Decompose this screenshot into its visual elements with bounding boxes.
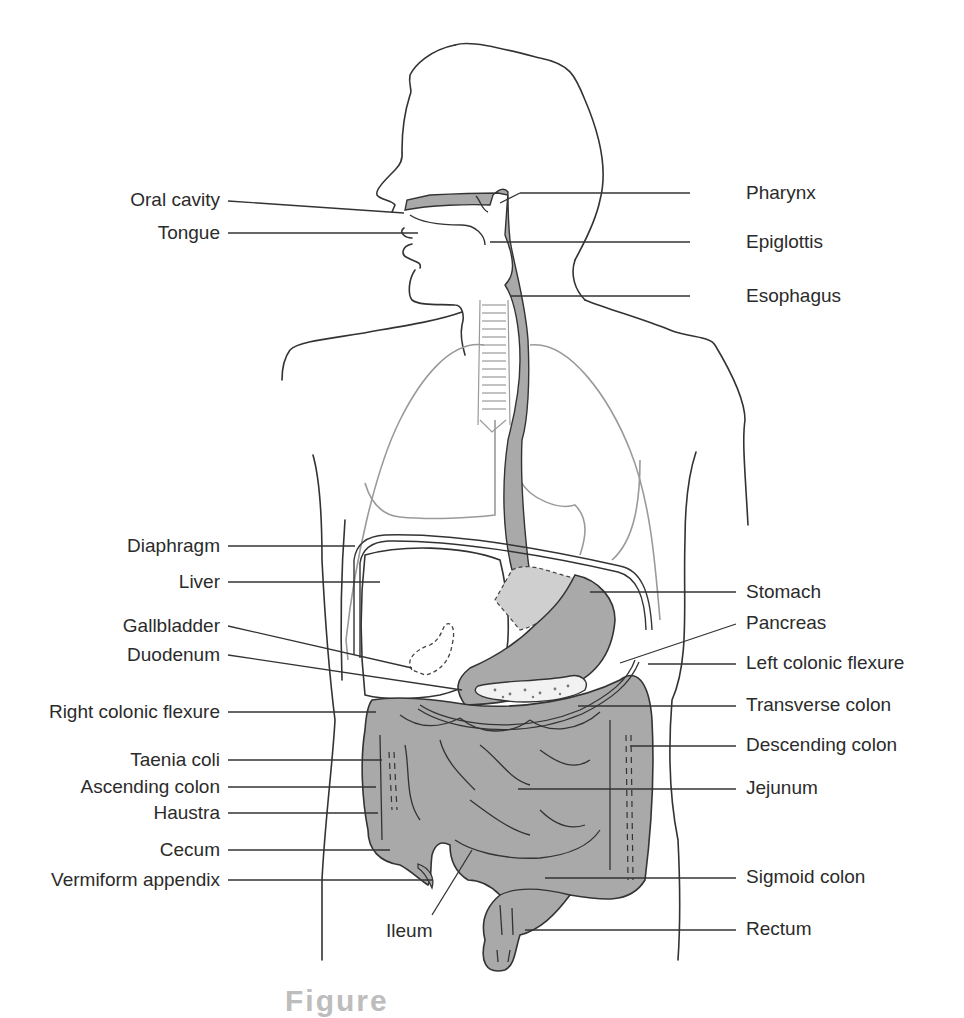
right-shoulder [585,300,748,525]
label-cecum: Cecum [0,839,220,861]
label-liver: Liver [0,571,220,593]
label-esophagus: Esophagus [746,285,841,307]
label-right-colonic-flexure: Right colonic flexure [0,701,220,723]
label-pancreas: Pancreas [746,612,826,634]
label-tongue: Tongue [0,222,220,244]
label-sigmoid-colon: Sigmoid colon [746,866,865,888]
label-pharynx: Pharynx [746,182,816,204]
label-gallbladder: Gallbladder [0,615,220,637]
label-ileum: Ileum [386,920,432,942]
left-shoulder [282,312,462,380]
face-profile [377,45,455,212]
head-outline [455,43,603,260]
label-left-colonic-flexure: Left colonic flexure [746,652,904,674]
label-taenia-coli: Taenia coli [0,749,220,771]
label-diaphragm: Diaphragm [0,535,220,557]
label-duodenum: Duodenum [0,644,220,666]
label-stomach: Stomach [746,581,821,603]
label-epiglottis: Epiglottis [746,231,823,253]
figure-caption: Figure [285,984,389,1018]
label-oral-cavity: Oral cavity [0,189,220,211]
label-rectum: Rectum [746,918,811,940]
label-haustra: Haustra [0,802,220,824]
label-descending-colon: Descending colon [746,734,897,756]
label-vermiform-appendix: Vermiform appendix [0,869,220,891]
label-jejunum: Jejunum [746,777,818,799]
left-torso [313,455,335,960]
trachea [478,300,510,432]
label-ascending-colon: Ascending colon [0,776,220,798]
label-transverse-colon: Transverse colon [746,694,891,716]
